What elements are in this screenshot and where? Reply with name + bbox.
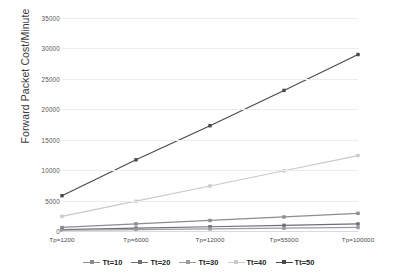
legend-item-tt-40[interactable]: Tt=40 (228, 258, 267, 267)
legend-item-tt-30[interactable]: Tt=30 (179, 258, 218, 267)
x-axis-tick: Tp=6000 (101, 236, 171, 243)
y-axis-tick: 15000 (14, 136, 60, 143)
legend-item-tt-50[interactable]: Tt=50 (276, 258, 315, 267)
y-axis-tick: 10000 (14, 167, 60, 174)
legend-label: Tt=20 (150, 258, 170, 267)
x-axis-tick: Tp=12000 (175, 236, 245, 243)
chart-legend: Tt=10Tt=20Tt=30Tt=40Tt=50 (0, 258, 398, 267)
legend-marker-icon (179, 259, 196, 266)
x-axis-tick: Tp=1200 (27, 236, 97, 243)
legend-label: Tt=40 (247, 258, 267, 267)
y-axis-tick: 25000 (14, 75, 60, 82)
chart-container: Forward Packet Cost/Minute 0500010000150… (0, 0, 398, 279)
legend-marker-icon (228, 259, 245, 266)
legend-marker-icon (83, 259, 100, 266)
legend-label: Tt=50 (295, 258, 315, 267)
legend-item-tt-20[interactable]: Tt=20 (131, 258, 170, 267)
y-axis-tick: 0 (14, 228, 60, 235)
legend-label: Tt=10 (102, 258, 122, 267)
x-axis-tick-labels: Tp=1200Tp=6000Tp=12000Tp=55000Tp=100000 (62, 0, 358, 279)
legend-marker-icon (276, 259, 293, 266)
x-axis-tick: Tp=100000 (323, 236, 393, 243)
y-axis-tick: 35000 (14, 15, 60, 22)
y-axis-tick: 5000 (14, 197, 60, 204)
legend-marker-icon (131, 259, 148, 266)
legend-label: Tt=30 (198, 258, 218, 267)
legend-item-tt-10[interactable]: Tt=10 (83, 258, 122, 267)
x-axis-tick: Tp=55000 (249, 236, 319, 243)
y-axis-tick: 30000 (14, 45, 60, 52)
y-axis-tick: 20000 (14, 106, 60, 113)
